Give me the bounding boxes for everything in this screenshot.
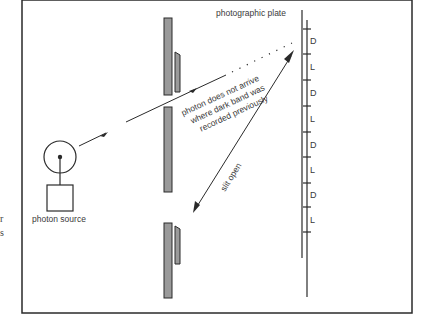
source-label: photon source xyxy=(32,214,86,224)
barrier-middle xyxy=(164,107,172,192)
band-label-2: L xyxy=(310,62,315,72)
photon-source: photon source xyxy=(32,141,86,224)
path-segment-3 xyxy=(196,75,226,89)
band-label-3: D xyxy=(310,88,317,98)
source-box xyxy=(47,185,73,211)
path-segment-1 xyxy=(79,133,106,146)
barrier-top xyxy=(164,18,172,95)
diagram-frame xyxy=(22,0,412,313)
shutter-lower xyxy=(175,226,180,264)
band-label-1: D xyxy=(310,36,317,46)
band-label-8: L xyxy=(310,215,315,225)
path-dotted xyxy=(232,43,292,72)
barrier-bottom xyxy=(164,223,172,298)
arrowhead-up xyxy=(284,50,294,63)
slit-open-indicator: slit open xyxy=(193,50,294,213)
no-arrive-annotation: photon does not arrive where dark band w… xyxy=(180,72,271,137)
band-label-7: D xyxy=(310,190,317,200)
plate-label: photographic plate xyxy=(216,8,286,18)
path-arrow-small xyxy=(100,132,108,137)
shutter-upper xyxy=(175,52,180,92)
band-label-6: L xyxy=(310,165,315,175)
diagram-canvas: photon source photon does not arrive whe… xyxy=(0,0,435,315)
barrier xyxy=(164,18,180,298)
band-label-4: L xyxy=(310,114,315,124)
band-label-5: D xyxy=(310,140,317,150)
